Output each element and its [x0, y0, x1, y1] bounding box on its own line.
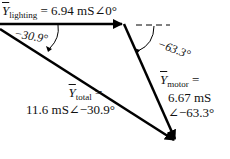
total-symbol: Y	[69, 85, 76, 100]
motor-angle: ∠−63.3°	[168, 106, 214, 120]
motor-magnitude: 6.67 mS	[168, 91, 214, 105]
total-value: 11.6 mS∠−30.9°	[26, 103, 115, 117]
motor-label: Ymotor = 6.67 mS ∠−63.3°	[160, 73, 214, 120]
total-vector	[0, 29, 174, 140]
motor-angle-arc	[138, 26, 154, 51]
lighting-subscript: lighting	[9, 10, 37, 20]
lighting-label: Ylighting = 6.94 mS∠0°	[2, 4, 117, 19]
motor-subscript: motor	[167, 79, 189, 89]
total-label: Ytotal = 11.6 mS∠−30.9°	[40, 86, 115, 117]
total-equals: =	[95, 85, 102, 100]
lighting-equals: =	[41, 3, 48, 18]
total-angle-arc	[50, 25, 58, 48]
lighting-value: 6.94 mS∠0°	[51, 3, 117, 18]
total-subscript: total	[76, 92, 92, 102]
motor-equals: =	[192, 72, 199, 87]
